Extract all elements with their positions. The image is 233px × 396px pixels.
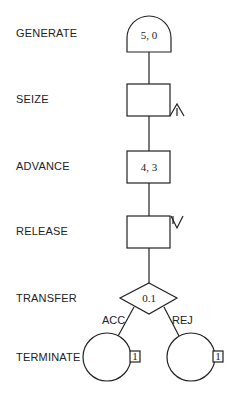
- seize-block: [127, 84, 170, 116]
- terminate-block-acc: [83, 333, 131, 381]
- branch-label-rej: REJ: [172, 314, 193, 326]
- gpss-block-diagram: 5, 0 4, 3 0.1 ACC REJ 1 1: [0, 0, 233, 396]
- terminate-block-rej: [167, 333, 215, 381]
- release-block: [127, 216, 170, 248]
- transfer-operand: 0.1: [142, 292, 156, 304]
- terminate-count-rej: 1: [215, 350, 221, 362]
- generate-operand: 5, 0: [141, 29, 158, 41]
- advance-operand: 4, 3: [141, 161, 158, 173]
- terminate-count-acc: 1: [132, 350, 138, 362]
- branch-label-acc: ACC: [102, 314, 125, 326]
